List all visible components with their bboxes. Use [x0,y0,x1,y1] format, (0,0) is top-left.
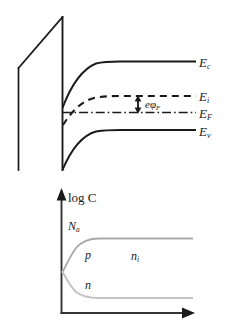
intrinsic-level-curve [63,96,196,125]
e-phi-f-arrow [135,95,142,114]
oxide-barrier-slope-line [19,17,63,68]
p-concentration-curve [62,239,193,274]
valence-band-curve [63,130,197,170]
label-n: n [85,279,91,291]
figure-svg [0,0,225,331]
label-p: p [85,249,91,261]
label-log-c-axis: log C [68,191,97,204]
energy-band-and-carrier-concentration-figure: Ec Ei EF Ev eφF log C Na p ni n [0,0,225,331]
label-ei: Ei [199,90,209,103]
x-axis-arrowhead [182,308,195,319]
label-ef: EF [199,107,212,120]
y-axis-arrowhead [57,188,67,201]
n-concentration-curve [62,271,193,298]
label-ev: Ev [199,125,211,138]
conduction-band-curve [63,62,197,109]
label-e-phi-f: eφF [145,99,160,110]
label-ni: ni [131,250,139,262]
label-na: Na [68,220,80,232]
label-ec: Ec [199,56,211,69]
concentration-plot-group [57,188,195,318]
band-diagram-group [19,17,197,170]
